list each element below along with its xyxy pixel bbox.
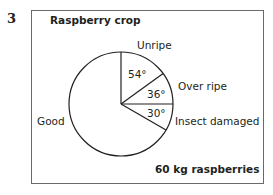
total-label: 60 kg raspberries [155,163,259,175]
angle-label-insect: 30° [147,107,166,119]
angle-label-unripe: 54° [128,68,147,80]
label-insect-damaged: Insect damaged [175,115,259,127]
angle-label-overripe: 36° [147,88,166,100]
label-overripe: Over ripe [178,80,227,92]
label-unripe: Unripe [137,39,172,51]
label-good: Good [37,115,65,127]
